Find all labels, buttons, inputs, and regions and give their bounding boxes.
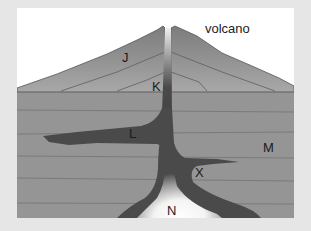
label-x: X (195, 166, 204, 179)
volcano-diagram: volcano J K L M X N (17, 8, 294, 218)
volcano-cone-left (17, 26, 165, 92)
label-n: N (167, 204, 176, 217)
volcano-cross-section-graphic (17, 8, 294, 218)
label-j: J (122, 51, 129, 64)
label-k: K (152, 80, 161, 93)
label-m: M (263, 141, 274, 154)
title-label: volcano (205, 22, 250, 35)
label-l: L (129, 127, 136, 140)
